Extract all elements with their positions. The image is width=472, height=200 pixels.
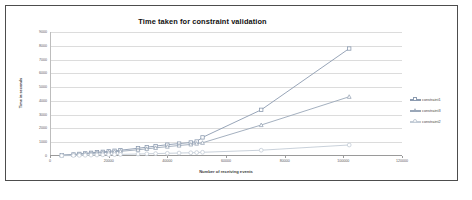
y-tick-label: 2000 (39, 126, 47, 130)
series-constraint1 (60, 47, 351, 157)
x-tick-mark (402, 156, 403, 158)
data-point (60, 154, 64, 158)
x-tick-mark (285, 156, 286, 158)
data-point (136, 152, 140, 156)
chart-title: Time taken for constraint validation (6, 17, 457, 26)
data-point (95, 153, 99, 157)
y-tick-label: 3000 (39, 113, 47, 117)
data-point (154, 152, 158, 156)
x-tick-label: 40000 (162, 159, 172, 163)
x-tick-label: 0 (49, 159, 51, 163)
data-point (201, 136, 204, 139)
plot-area: 0100020003000400050006000700080009000 02… (50, 32, 402, 156)
data-point (347, 95, 351, 99)
y-tick-label: 7000 (39, 58, 47, 62)
data-point (201, 141, 205, 145)
data-point (113, 153, 117, 157)
x-axis-title: Number of receiving events (50, 169, 402, 174)
chart-frame: Time taken for constraint validation Tim… (5, 5, 458, 181)
y-tick-label: 8000 (39, 44, 47, 48)
data-point (348, 47, 351, 50)
y-tick-label: 1000 (39, 140, 47, 144)
legend-label: constraint3 (422, 109, 441, 113)
x-tick-mark (226, 156, 227, 158)
y-tick-label: 4000 (39, 99, 47, 103)
data-point (107, 153, 111, 157)
legend-label: constraint2 (422, 120, 441, 124)
data-point (177, 151, 181, 155)
y-tick-label: 6000 (39, 71, 47, 75)
x-tick-label: 80000 (280, 159, 290, 163)
data-point (195, 151, 199, 155)
x-tick-mark (50, 156, 51, 158)
data-point (201, 150, 205, 154)
data-point (260, 108, 263, 111)
data-point (89, 153, 93, 157)
legend-item-constraint3[interactable]: constraint3 (410, 105, 460, 116)
legend-marker-icon (410, 110, 421, 112)
x-tick-label: 120000 (396, 159, 408, 163)
legend-label: constraint1 (422, 98, 441, 102)
y-tick-label: 0 (45, 154, 47, 158)
x-tick-mark (167, 156, 168, 158)
data-point (83, 153, 87, 157)
data-point (72, 154, 76, 158)
data-point (145, 152, 149, 156)
chart-legend: constraint1constraint3constraint2 (410, 94, 460, 127)
data-point (259, 148, 263, 152)
data-point (101, 153, 105, 157)
data-point (347, 143, 351, 147)
data-point (77, 153, 81, 157)
legend-item-constraint1[interactable]: constraint1 (410, 94, 460, 105)
data-point (259, 123, 263, 127)
series-line (62, 97, 349, 156)
y-axis-title: Time in seconds (18, 78, 23, 108)
y-tick-label: 5000 (39, 85, 47, 89)
data-point (165, 151, 169, 155)
legend-item-constraint2[interactable]: constraint2 (410, 116, 460, 127)
series-lines (50, 32, 402, 156)
series-line (62, 49, 349, 156)
data-point (119, 153, 123, 157)
y-tick-label: 9000 (39, 30, 47, 34)
x-tick-label: 60000 (221, 159, 231, 163)
data-point (189, 151, 193, 155)
legend-marker-icon (410, 99, 421, 101)
x-tick-mark (343, 156, 344, 158)
legend-marker-icon (410, 121, 421, 123)
x-tick-label: 100000 (337, 159, 349, 163)
x-tick-label: 20000 (104, 159, 114, 163)
